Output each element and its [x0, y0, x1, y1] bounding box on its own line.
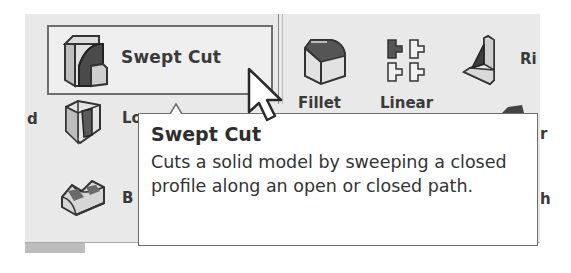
clipped-label-left: d — [27, 110, 38, 128]
rib-icon — [462, 34, 510, 86]
tooltip-arrow — [160, 99, 190, 115]
linear-pattern-label: Linear — [380, 94, 433, 112]
swept-cut-label: Swept Cut — [121, 47, 221, 67]
fillet-label: Fillet — [298, 94, 341, 112]
fillet-icon — [301, 36, 349, 86]
lofted-cut-icon — [62, 97, 106, 145]
boundary-cut-label: B — [122, 189, 133, 207]
clipped-label-right-2: h — [540, 190, 551, 208]
rib-label: Ri — [520, 50, 537, 68]
tooltip-body: Cuts a solid model by sweeping a closed … — [151, 150, 526, 198]
boundary-cut-icon — [58, 177, 108, 219]
fillet-button[interactable]: Fillet — [295, 36, 355, 114]
clipped-label-right-1: r — [540, 125, 547, 143]
swept-cut-icon — [59, 32, 111, 90]
linear-pattern-button[interactable]: Linear — [378, 36, 448, 114]
swept-cut-button[interactable]: Swept Cut — [47, 25, 273, 95]
ribbon-tab-strip — [25, 243, 85, 253]
mouse-cursor-icon — [245, 66, 291, 128]
linear-pattern-icon — [386, 38, 430, 84]
lofted-cut-button[interactable]: Lo — [60, 97, 140, 145]
tooltip: Swept Cut Cuts a solid model by sweeping… — [138, 113, 538, 246]
boundary-cut-button[interactable]: B — [58, 175, 138, 223]
rib-button[interactable]: Ri — [462, 34, 540, 88]
